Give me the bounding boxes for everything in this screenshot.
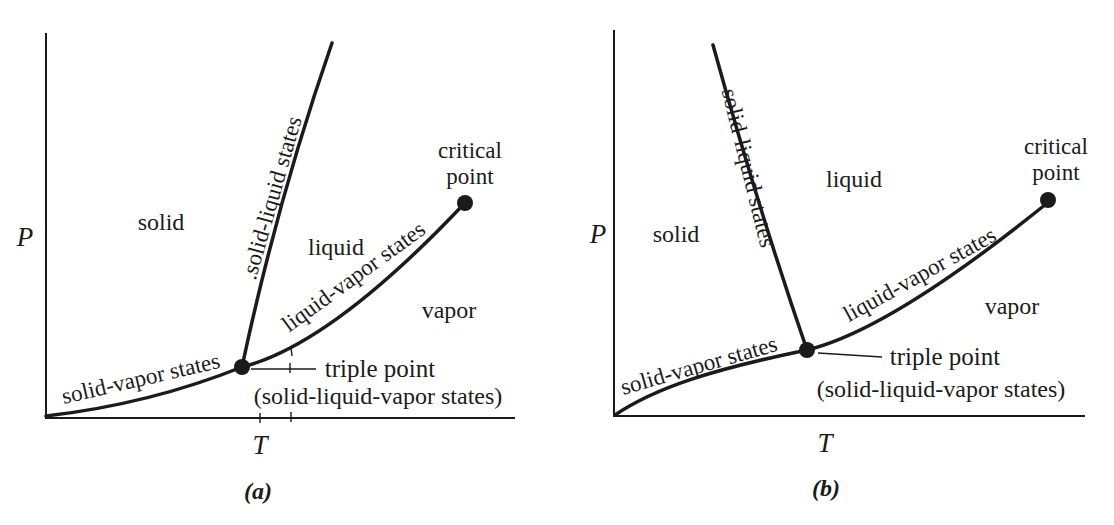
pt-phase-diagrams-figure: P solid .solid-liquid states liquid liqu… <box>0 0 1114 525</box>
b-panel-caption: (b) <box>812 476 840 501</box>
a-y-axis-label: P <box>17 223 34 251</box>
a-triple-point-sublabel: (solid-liquid-vapor states) <box>254 384 503 409</box>
b-critical-point-label: critical point <box>1024 134 1088 186</box>
b-triple-point-sublabel: (solid-liquid-vapor states) <box>817 377 1066 402</box>
b-triple-point-leader-line <box>818 353 882 357</box>
a-curve-tick <box>291 347 292 356</box>
b-critical-point-dot <box>1040 192 1056 208</box>
b-x-axis-label: T <box>817 429 832 457</box>
a-critical-point-label: critical point <box>438 138 502 190</box>
b-region-label-liquid: liquid <box>826 167 882 192</box>
a-critical-point-dot <box>457 195 473 211</box>
b-region-label-solid: solid <box>653 222 700 247</box>
b-triple-point-label: triple point <box>890 344 1000 370</box>
a-critical-point-label-line2: point <box>446 164 493 190</box>
a-triple-point-label: triple point <box>325 356 435 382</box>
a-region-label-vapor: vapor <box>422 298 477 323</box>
b-triple-point-dot <box>799 342 815 358</box>
a-critical-point-label-line1: critical <box>438 138 502 164</box>
b-y-axis-label: P <box>590 220 607 248</box>
b-critical-point-label-line2: point <box>1032 160 1079 186</box>
diagram-a-curves <box>46 33 515 423</box>
a-x-axis-label: T <box>252 431 267 459</box>
a-region-label-liquid: liquid <box>308 235 364 260</box>
a-panel-caption: (a) <box>244 479 272 504</box>
a-region-label-solid: solid <box>138 210 185 235</box>
b-critical-point-label-line1: critical <box>1024 134 1088 160</box>
b-region-label-vapor: vapor <box>985 294 1040 319</box>
a-triple-point-dot <box>234 359 250 375</box>
